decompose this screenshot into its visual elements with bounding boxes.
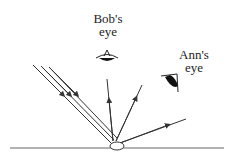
reflecting-object xyxy=(110,142,124,150)
reflected-rays xyxy=(107,79,186,143)
ann-eye-icon xyxy=(161,74,178,92)
bob-eye-label: Bob's eye xyxy=(88,12,128,38)
bob-label-line2: eye xyxy=(88,25,128,38)
ann-eye-label: Ann's eye xyxy=(172,48,216,74)
incident-rays xyxy=(33,65,117,143)
bob-eye-icon xyxy=(96,50,118,61)
ann-label-line2: eye xyxy=(172,61,216,74)
